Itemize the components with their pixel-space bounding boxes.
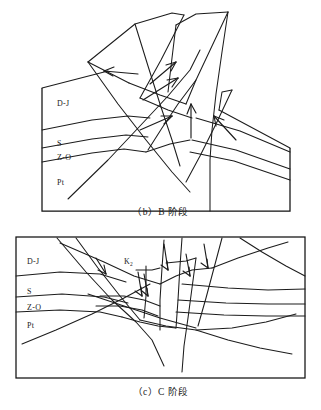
panel-b-thrust-fault-4 (186, 90, 232, 182)
panel-c-diagram: D-J S Z-O Pt K 2 (0, 228, 321, 383)
panel-c-normal-fault-6 (196, 330, 292, 354)
panel-b-strata-right (190, 118, 290, 180)
panel-b-transport-arrow-6 (214, 116, 236, 140)
panel-b-label-dj: D-J (57, 99, 69, 108)
panel-b-label-pt: Pt (57, 178, 65, 187)
panel-b-transport-arrow-2 (143, 78, 178, 100)
figure-root: D-J S Z-O Pt （b）B 阶段 (0, 0, 321, 410)
panel-c-slip-arrow-6 (201, 244, 208, 268)
panel-c-normal-fault-5 (198, 238, 222, 326)
panel-b-thrust-fault-5 (210, 12, 228, 211)
panel-c-slip-arrow-2 (135, 272, 142, 296)
panel-b-transport-arrow-3 (104, 67, 138, 76)
panel-b-frame (42, 88, 290, 211)
panel-c-thrust-ramp-1 (22, 284, 150, 344)
panel-c-normal-fault-3 (176, 238, 182, 328)
panel-c-label-k2-subscript: 2 (130, 261, 133, 267)
panel-c-label-dj: D-J (27, 257, 39, 266)
panel-b-strata-duplex (129, 83, 192, 152)
panel-b-caption: （b）B 阶段 (0, 204, 321, 218)
panel-c-stage: D-J S Z-O Pt K 2 (0, 228, 321, 383)
panel-b-label-s: S (57, 139, 62, 148)
panel-b-transport-arrow-4 (140, 116, 172, 130)
panel-c-label-pt: Pt (27, 321, 35, 330)
panel-c-normal-fault-2 (160, 240, 164, 330)
panel-c-strata-right (176, 284, 305, 316)
panel-b-label-zo: Z-O (57, 153, 71, 162)
panel-c-normal-fault-7 (240, 238, 305, 276)
panel-c-caption: （c）C 阶段 (0, 384, 321, 398)
panel-c-label-s: S (27, 287, 32, 296)
panel-b-transport-arrow-5 (187, 104, 196, 138)
panel-c-slip-arrow-4 (161, 244, 168, 270)
panel-c-label-zo: Z-O (27, 303, 41, 312)
panel-b-diagram: D-J S Z-O Pt (0, 0, 321, 215)
panel-b-stage: D-J S Z-O Pt (0, 0, 321, 215)
panel-b-thrust-sheet-upper-right (168, 12, 228, 104)
